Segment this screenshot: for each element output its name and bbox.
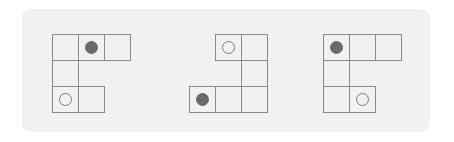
grid-cell [241,60,268,87]
hollow-circle-icon [59,93,72,106]
grid-cell [215,86,242,113]
diagram-panel [22,9,430,132]
grid-cell [241,86,268,113]
hollow-circle-icon [222,41,235,54]
grid-cell [52,60,79,87]
grid-cell [78,86,105,113]
hollow-circle-icon [356,93,369,106]
filled-circle-icon [85,41,98,54]
grid-cell [241,34,268,61]
grid-cell [323,86,350,113]
grid-cell [323,60,350,87]
filled-circle-icon [196,93,209,106]
filled-circle-icon [330,41,343,54]
grid-cell [349,34,376,61]
grid-cell [52,34,79,61]
grid-cell [375,34,402,61]
grid-cell [104,34,131,61]
